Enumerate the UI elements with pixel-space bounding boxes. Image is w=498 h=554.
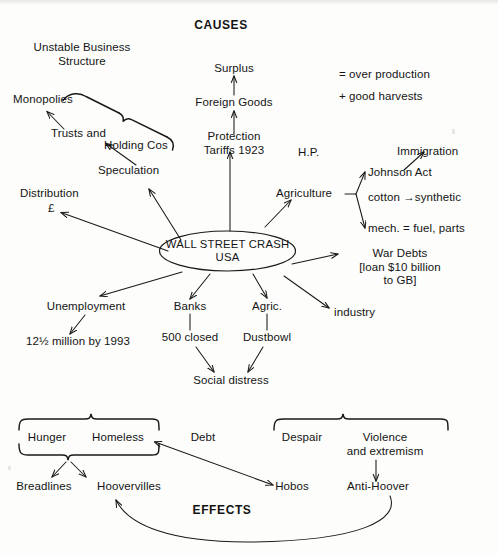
- arrow-crash-to-agriculture: [265, 200, 291, 227]
- label-distribution: Distribution: [20, 187, 79, 201]
- arrow-dustbowl-to-social-distress: [248, 347, 263, 372]
- arrow-agriculture-to-johnson-act: [356, 172, 365, 194]
- label-cotton-synthetic: cotton →synthetic: [368, 191, 461, 205]
- section-title-effects: EFFECTS: [193, 504, 252, 518]
- label-breadlines: Breadlines: [16, 480, 71, 494]
- label-pound-sign: £: [48, 202, 55, 216]
- label-industry: industry: [334, 306, 375, 320]
- central-node-line2: USA: [159, 251, 296, 264]
- label-social-distress: Social distress: [193, 374, 269, 388]
- label-banks: Banks: [174, 300, 206, 314]
- arrow-crash-to-banks: [190, 274, 210, 299]
- section-title-causes: CAUSES: [194, 19, 248, 33]
- legend-over-production: = over production: [339, 68, 430, 82]
- label-despair: Despair: [282, 431, 322, 445]
- label-unemployment-figure: 12½ million by 1993: [26, 335, 130, 349]
- arrow-homeless-hobos: [155, 442, 273, 485]
- label-hobos: Hobos: [275, 480, 309, 494]
- arrow-crash-to-unemployment: [100, 272, 182, 296]
- arrow-crash-to-speculation: [149, 189, 181, 240]
- label-mechanisation: mech. = fuel, parts: [368, 222, 465, 236]
- central-node-text: WALL STREET CRASH USA: [159, 238, 296, 264]
- brace-effects-right-top: [274, 415, 448, 431]
- arrow-anti-hoover-to-hoovervilles: [116, 496, 391, 542]
- arrow-to-hoovervilles: [71, 462, 86, 477]
- label-protection-tariffs: Protection Tariffs 1923: [204, 130, 264, 157]
- arrow-to-breadlines: [52, 462, 66, 477]
- label-anti-hoover: Anti-Hoover: [347, 480, 409, 494]
- label-holding-cos: Holding Cos: [104, 139, 168, 153]
- label-homeless: Homeless: [92, 431, 144, 445]
- label-agric: Agric.: [252, 300, 282, 314]
- arrow-crash-to-war-debts: [292, 254, 338, 264]
- label-banks-closed: 500 closed: [162, 331, 219, 345]
- label-johnson-act: Johnson Act: [368, 166, 432, 180]
- label-monopolies: Monopolies: [13, 93, 73, 107]
- label-dustbowl: Dustbowl: [243, 331, 291, 345]
- label-hp: H.P.: [298, 146, 319, 160]
- label-trusts-and: Trusts and: [51, 127, 106, 141]
- arrow-crash-to-distribution: [61, 213, 168, 252]
- label-hunger: Hunger: [28, 431, 66, 445]
- label-violence-extremism: Violence and extremism: [347, 431, 424, 458]
- arrow-crash-to-agric: [253, 274, 267, 298]
- brace-effects-left-bottom: [19, 444, 159, 460]
- label-foreign-goods: Foreign Goods: [195, 96, 272, 110]
- brace-effects-left-top: [19, 415, 159, 431]
- label-surplus: Surplus: [214, 62, 254, 76]
- legend-good-harvests: + good harvests: [339, 90, 423, 104]
- label-war-debts: War Debts [loan $10 billion to GB]: [359, 247, 441, 288]
- arrow-crash-to-industry: [284, 276, 329, 308]
- label-speculation: Speculation: [98, 164, 159, 178]
- label-agriculture: Agriculture: [276, 187, 332, 201]
- concept-map-canvas: CAUSES Unstable Business Structure Monop…: [0, 0, 498, 554]
- label-hoovervilles: Hoovervilles: [97, 480, 161, 494]
- arrow-unemployment-to-figure: [70, 315, 85, 334]
- label-immigration: Immigration: [397, 145, 458, 159]
- arrow-500-closed-to-social-distress: [196, 347, 214, 372]
- label-unstable-business-structure: Unstable Business Structure: [34, 41, 131, 68]
- arrow-agriculture-to-mech: [356, 194, 365, 228]
- central-node-line1: WALL STREET CRASH: [159, 238, 296, 251]
- label-unemployment: Unemployment: [47, 300, 126, 314]
- label-debt: Debt: [191, 431, 216, 445]
